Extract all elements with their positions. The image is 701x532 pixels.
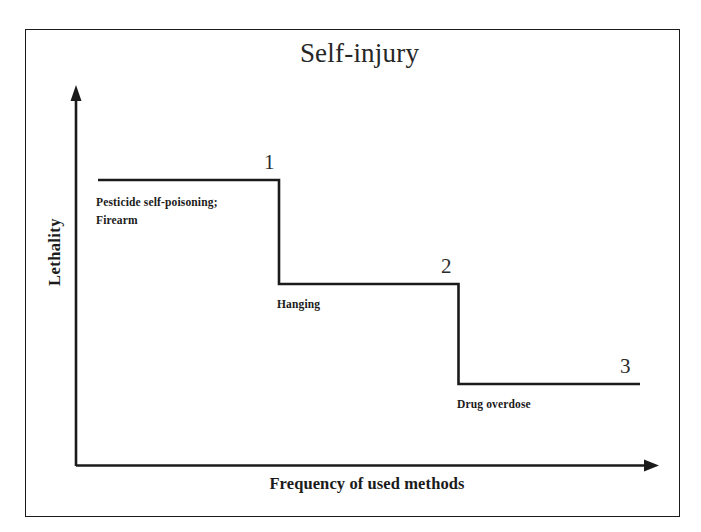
- y-axis: [71, 85, 82, 466]
- y-axis-title: Lethality: [45, 172, 65, 332]
- step-label-1: Pesticide self-poisoning; Firearm: [96, 194, 218, 230]
- x-axis-arrow-icon: [644, 460, 659, 472]
- step-number-2: 2: [441, 256, 452, 277]
- x-axis: [76, 460, 659, 472]
- step-number-1: 1: [264, 152, 275, 173]
- y-axis-arrow-icon: [71, 85, 82, 101]
- plot-area: [0, 0, 701, 532]
- chart-canvas: Self-injury 1 2 3 Pesticide self-poisoni…: [0, 0, 701, 532]
- x-axis-title: Frequency of used methods: [76, 474, 658, 494]
- step-label-3: Drug overdose: [457, 396, 531, 414]
- step-label-2: Hanging: [277, 296, 320, 314]
- step-number-3: 3: [620, 356, 631, 377]
